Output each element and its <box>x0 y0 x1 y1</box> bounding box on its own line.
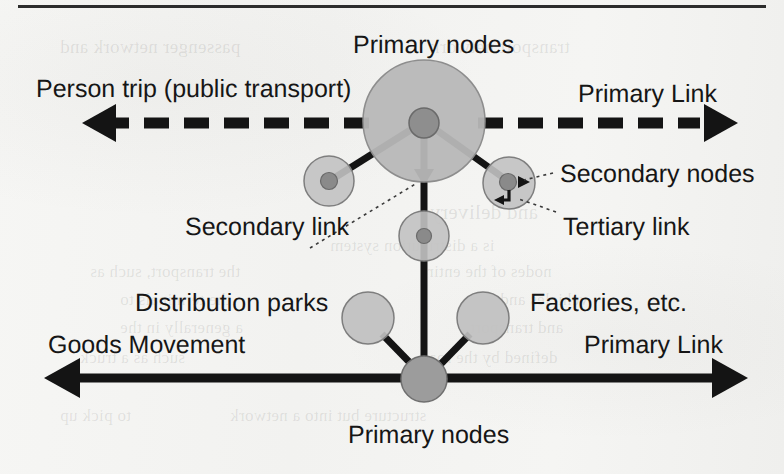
node-secondary-center <box>399 211 449 261</box>
figure-canvas: passenger network andtransport networkan… <box>0 0 784 474</box>
label-primary-link-bottom: Primary Link <box>584 333 723 358</box>
node-secondary-right-core <box>500 174 517 191</box>
node-top-primary-core <box>409 108 439 138</box>
label-goods-movement: Goods Movement <box>48 333 245 358</box>
primary-link-arrowhead-left <box>82 104 116 142</box>
primary-link-solid-axis <box>44 358 748 398</box>
node-secondary-left <box>304 156 354 206</box>
node-secondary-left-core <box>321 173 338 190</box>
label-primary-nodes-top: Primary nodes <box>353 33 514 58</box>
label-tertiary-link: Tertiary link <box>563 215 689 240</box>
node-secondary-center-core <box>417 229 432 244</box>
primary-link-arrowhead-right <box>704 104 738 142</box>
label-person-trip: Person trip (public transport) <box>36 77 351 102</box>
label-primary-link-top: Primary Link <box>578 82 717 107</box>
node-distribution-park <box>342 292 394 344</box>
node-factory <box>457 292 509 344</box>
label-primary-nodes-bottom: Primary nodes <box>348 423 509 448</box>
label-secondary-nodes: Secondary nodes <box>560 162 755 187</box>
node-bottom-primary <box>401 356 447 402</box>
primary-link-solid-arrowhead-left <box>44 358 80 398</box>
node-top-primary <box>363 60 485 182</box>
label-factories: Factories, etc. <box>530 291 687 316</box>
label-distribution-parks: Distribution parks <box>135 291 328 316</box>
label-secondary-link: Secondary link <box>185 215 349 240</box>
primary-link-solid-arrowhead-right <box>712 358 748 398</box>
